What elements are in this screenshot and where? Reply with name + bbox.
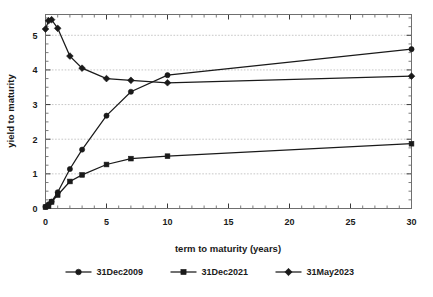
data-point-31Dec2021-2 [68, 179, 73, 184]
data-point-31Dec2009-10 [165, 73, 170, 78]
legend: 31Dec200931Dec202131May2023 [66, 267, 355, 277]
x-tick-label-5: 5 [104, 217, 109, 227]
series-31May2023 [42, 16, 415, 86]
y-tick-label-4: 4 [32, 65, 37, 75]
x-tick-label-15: 15 [223, 217, 233, 227]
data-point-31Dec2021-1 [55, 193, 60, 198]
data-point-31Dec2021-10 [165, 154, 170, 159]
series-layer [42, 16, 415, 209]
data-point-31Dec2021-7 [129, 156, 134, 161]
x-tick-label-25: 25 [345, 217, 355, 227]
y-axis-title: yield to maturity [5, 74, 16, 148]
data-point-31Dec2009-5 [104, 113, 109, 118]
data-point-31May2023-10 [164, 79, 171, 86]
y-tick-label-3: 3 [32, 100, 37, 110]
legend-marker-circle-icon [76, 269, 82, 275]
data-point-31Dec2009-30 [409, 47, 414, 52]
legend-label-31May2023: 31May2023 [307, 267, 355, 277]
data-point-31Dec2021-5 [104, 162, 109, 167]
y-tick-label-0: 0 [32, 204, 37, 214]
data-point-31Dec2009-2 [67, 166, 72, 171]
data-point-31May2023-7 [128, 77, 135, 84]
tick-labels-layer: 051015202530012345 [32, 31, 416, 227]
chart-canvas: 051015202530012345 term to maturity (yea… [0, 0, 433, 297]
series-line-31May2023 [46, 20, 412, 83]
data-point-31Dec2009-3 [80, 147, 85, 152]
series-31Dec2021 [43, 141, 414, 209]
plot-frame [46, 15, 412, 209]
data-point-31May2023-5 [103, 75, 110, 82]
data-point-31Dec2021-3 [80, 173, 85, 178]
data-point-31Dec2009-7 [128, 89, 133, 94]
y-tick-label-1: 1 [32, 169, 37, 179]
x-axis-title: term to maturity (years) [175, 243, 281, 254]
ticks-layer [46, 15, 412, 209]
legend-label-31Dec2021: 31Dec2021 [202, 267, 249, 277]
x-tick-label-30: 30 [406, 217, 416, 227]
x-tick-label-10: 10 [162, 217, 172, 227]
x-tick-label-0: 0 [43, 217, 48, 227]
series-line-31Dec2021 [46, 144, 412, 207]
series-31Dec2009 [43, 47, 414, 210]
y-tick-label-5: 5 [32, 31, 37, 41]
data-point-31Dec2021-30 [409, 141, 414, 146]
legend-marker-square-icon [181, 269, 186, 274]
legend-label-31Dec2009: 31Dec2009 [97, 267, 144, 277]
legend-marker-diamond-icon [285, 268, 292, 275]
series-line-31Dec2009 [46, 49, 412, 207]
x-tick-label-20: 20 [284, 217, 294, 227]
yield-curve-chart: 051015202530012345 term to maturity (yea… [0, 0, 433, 297]
y-tick-label-2: 2 [32, 135, 37, 145]
data-point-31Dec2021-0.5 [49, 200, 54, 205]
